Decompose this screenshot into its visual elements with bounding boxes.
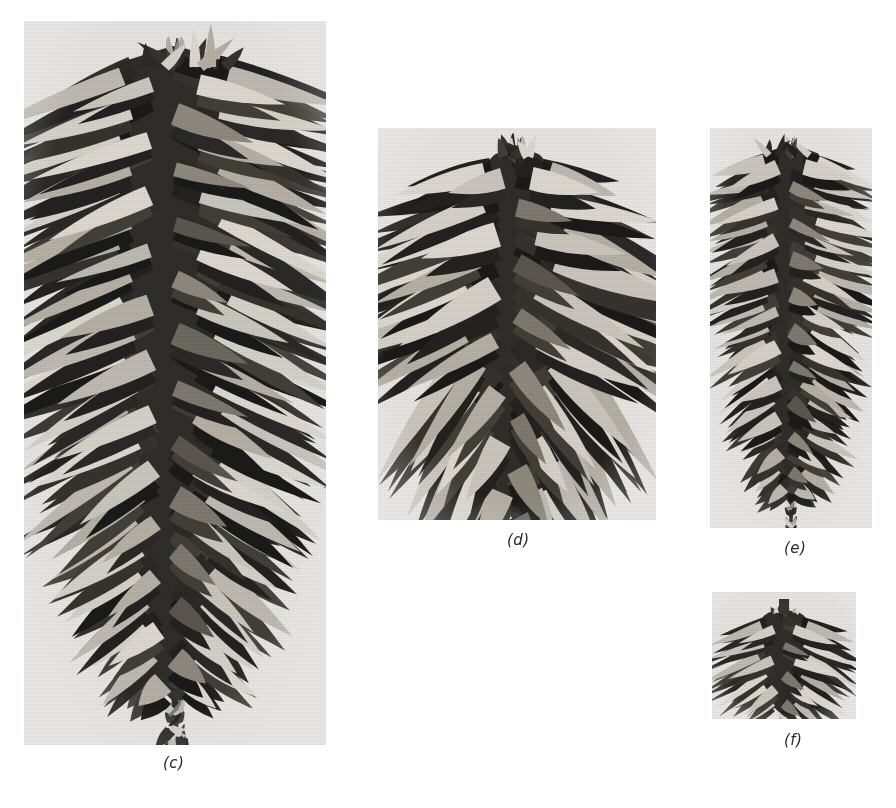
cone-photo-e bbox=[710, 128, 872, 528]
cone-illustration-c bbox=[24, 21, 326, 745]
panel-e bbox=[710, 128, 872, 528]
panel-caption-c: (c) bbox=[163, 754, 184, 772]
cone-illustration-f bbox=[712, 592, 856, 719]
cone-photo-d bbox=[378, 128, 656, 520]
panel-caption-f: (f) bbox=[784, 731, 802, 749]
panel-c bbox=[24, 21, 326, 745]
panel-f bbox=[712, 592, 856, 719]
figure-plate: (c)(d)(e)(f) bbox=[0, 0, 896, 808]
cone-illustration-d bbox=[378, 128, 656, 520]
panel-d bbox=[378, 128, 656, 520]
cone-photo-c bbox=[24, 21, 326, 745]
panel-caption-e: (e) bbox=[784, 539, 806, 557]
panel-caption-d: (d) bbox=[507, 531, 529, 549]
cone-photo-f bbox=[712, 592, 856, 719]
cone-illustration-e bbox=[710, 128, 872, 528]
